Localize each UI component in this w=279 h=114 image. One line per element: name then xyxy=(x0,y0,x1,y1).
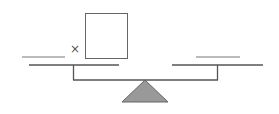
multiply-sign: × xyxy=(70,42,80,56)
balance-diagram: × xyxy=(0,0,279,114)
answer-box xyxy=(86,14,128,59)
fulcrum xyxy=(122,80,168,102)
